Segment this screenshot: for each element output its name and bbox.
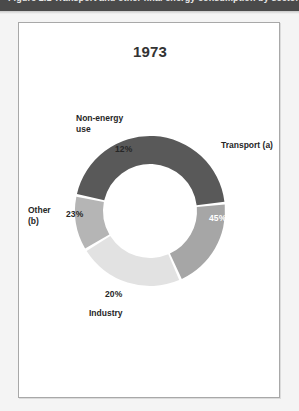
figure-caption-banner: Figure 2.1 Transport and other final ene… — [0, 0, 299, 11]
slice-label-industry: Industry — [89, 308, 123, 319]
slice-value-other: 23% — [66, 209, 83, 219]
chart-panel: 1973 Transport (a) Industry Other (b) No… — [18, 22, 280, 398]
slice-value-transport: 45% — [209, 213, 226, 223]
donut-slice-transport-a — [77, 136, 224, 205]
slice-label-other: Other (b) — [28, 205, 51, 226]
donut-slice-other-b — [87, 236, 180, 286]
banner-drop-shadow — [0, 11, 299, 14]
figure-caption-text: Figure 2.1 Transport and other final ene… — [8, 0, 299, 3]
donut-chart: Transport (a) Industry Other (b) Non-ene… — [19, 23, 281, 399]
slice-value-non-energy-use: 12% — [115, 144, 132, 154]
slice-label-transport: Transport (a) — [221, 140, 273, 151]
slice-label-non-energy-use: Non-energy use — [76, 113, 123, 134]
donut-slice-group — [75, 136, 225, 286]
slice-value-industry: 20% — [105, 289, 122, 299]
